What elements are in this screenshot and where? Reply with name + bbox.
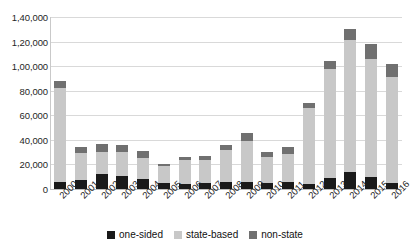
x-axis-tick-labels: 2000200120022003200420052006200720082009… — [0, 0, 410, 251]
x-axis-tick-label: 2012 — [306, 178, 328, 200]
legend-swatch-icon — [249, 231, 257, 239]
stacked-bar-chart: 1,40,0001,20,0001,00,00080,00060,00040,0… — [0, 0, 410, 251]
x-axis-tick-label: 2014 — [347, 178, 369, 200]
x-axis-tick-label: 2000 — [57, 178, 79, 200]
x-axis-tick-label: 2001 — [78, 178, 100, 200]
x-axis-tick-label: 2002 — [99, 178, 121, 200]
legend-swatch-icon — [107, 231, 115, 239]
x-axis-tick-label: 2011 — [285, 179, 307, 201]
x-axis-tick-label: 2009 — [244, 178, 266, 200]
legend-label: state-based — [186, 230, 238, 240]
legend-swatch-icon — [174, 231, 182, 239]
x-axis-tick-label: 2003 — [119, 178, 141, 200]
x-axis-tick-label: 2004 — [140, 178, 162, 200]
x-axis-tick-label: 2006 — [182, 178, 204, 200]
chart-legend: one-sidedstate-basednon-state — [0, 230, 410, 240]
legend-label: one-sided — [119, 230, 163, 240]
legend-label: non-state — [261, 230, 303, 240]
x-axis-tick-label: 2013 — [327, 178, 349, 200]
x-axis-tick-label: 2007 — [202, 178, 224, 200]
x-axis-tick-label: 2005 — [161, 178, 183, 200]
x-axis-tick-label: 2015 — [368, 178, 390, 200]
legend-item[interactable]: one-sided — [107, 230, 163, 240]
x-axis-tick-label: 2008 — [223, 178, 245, 200]
x-axis-tick-label: 2016 — [389, 178, 410, 200]
x-axis-tick-label: 2010 — [264, 178, 286, 200]
legend-item[interactable]: state-based — [174, 230, 238, 240]
legend-item[interactable]: non-state — [249, 230, 303, 240]
